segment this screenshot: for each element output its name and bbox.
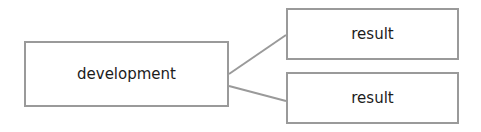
node-label: development: [77, 65, 176, 83]
node-development: development: [24, 41, 229, 107]
edge-development-result1: [229, 35, 286, 74]
node-result-2: result: [286, 72, 459, 124]
node-label: result: [351, 89, 393, 107]
edge-development-result2: [229, 86, 286, 101]
node-label: result: [351, 25, 393, 43]
node-result-1: result: [286, 8, 459, 60]
